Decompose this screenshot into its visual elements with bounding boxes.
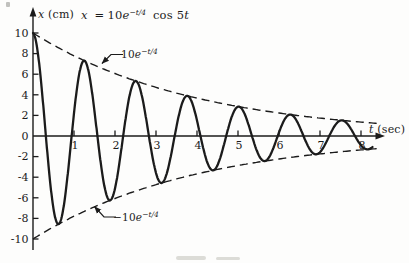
equation-label: x =10e−t/4 cos 5t bbox=[81, 9, 189, 22]
lower-envelope-label: −10e−t/4 bbox=[113, 211, 159, 223]
caption-smudge bbox=[176, 256, 206, 260]
y-tick-label: -10 bbox=[11, 233, 29, 246]
y-tick-label: 6 bbox=[22, 68, 29, 81]
y-tick-label: -2 bbox=[18, 150, 29, 163]
x-tick-label: 2 bbox=[113, 139, 120, 152]
x-tick-label: 3 bbox=[154, 139, 161, 152]
y-tick-label: 4 bbox=[22, 89, 29, 102]
equation-variable: x bbox=[81, 8, 88, 22]
x-tick-label: 6 bbox=[277, 139, 284, 152]
x-tick-label: 5 bbox=[236, 139, 243, 152]
equation-cos: cos bbox=[153, 8, 173, 22]
x-axis-variable: t bbox=[369, 123, 374, 136]
damped-oscillation-figure: 1086420-2-4-6-8-1012345678 x =10e−t/4 co… bbox=[0, 0, 409, 263]
y-tick-label: -8 bbox=[18, 212, 29, 225]
envelope-curve bbox=[33, 149, 377, 239]
lower-envelope-exponent: −t/4 bbox=[142, 210, 159, 219]
y-tick-label: 2 bbox=[22, 109, 29, 122]
envelope-curve bbox=[33, 33, 377, 123]
y-tick-label: 10 bbox=[15, 27, 29, 40]
lower-envelope-amplitude: −10 bbox=[113, 211, 136, 223]
y-tick-label: 8 bbox=[22, 47, 29, 60]
x-tick-label: 1 bbox=[72, 139, 79, 152]
equals-sign: = bbox=[95, 8, 105, 22]
y-tick-label: -6 bbox=[18, 192, 29, 205]
upper-envelope-arrow bbox=[102, 55, 123, 64]
upper-envelope-amplitude: 10 bbox=[121, 48, 135, 60]
y-axis-unit: (cm) bbox=[48, 8, 74, 21]
oscillation-chart: 1086420-2-4-6-8-1012345678 bbox=[0, 0, 409, 263]
y-tick-label: 0 bbox=[22, 130, 29, 143]
caption-remnant bbox=[176, 254, 246, 262]
x-axis-unit: (sec) bbox=[377, 123, 405, 136]
y-axis-arrowhead bbox=[30, 7, 37, 17]
y-tick-label: -4 bbox=[18, 171, 29, 184]
caption-smudge bbox=[216, 257, 240, 260]
upper-envelope-label: 10e−t/4 bbox=[121, 48, 158, 60]
upper-envelope-exponent: −t/4 bbox=[141, 47, 158, 56]
equation-time-variable: t bbox=[184, 8, 189, 22]
equation-amplitude: 10 bbox=[107, 8, 122, 22]
x-axis-label: t (sec) bbox=[369, 124, 405, 135]
equation-exponent: −t/4 bbox=[129, 8, 146, 17]
scan-speck bbox=[6, 2, 10, 7]
y-axis-label: x (cm) bbox=[38, 9, 74, 20]
oscillation-curve bbox=[33, 33, 373, 224]
y-axis-variable: x bbox=[38, 8, 44, 21]
